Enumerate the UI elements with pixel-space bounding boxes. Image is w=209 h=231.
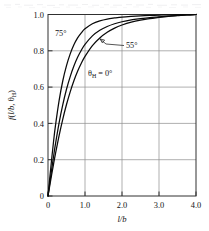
x-axis-title: l/b — [117, 214, 127, 224]
annotation-theta-0-deg: θH = 0° — [88, 69, 112, 79]
x-tick-label-3_0: 3.0 — [154, 201, 164, 210]
y-tick-label-0_8: 0.8 — [34, 47, 44, 56]
figure-container: 1.0 0.8 0.6 0.4 0.2 0 0 1.0 2.0 3.0 4.0 … — [0, 0, 209, 231]
annotation-55-deg: 55° — [126, 41, 137, 50]
svg-text:f(l/b, θH): f(l/b, θH) — [6, 90, 17, 120]
x-tick-label-0: 0 — [46, 201, 50, 210]
x-tick-label-1_0: 1.0 — [80, 201, 90, 210]
y-axis-title: f(l/b, θH) — [6, 90, 17, 120]
grid-group — [48, 15, 196, 197]
svg-text:θH = 0°: θH = 0° — [88, 69, 112, 79]
annotation-theta-deg: ° — [109, 69, 112, 78]
y-tick-label-0_2: 0.2 — [34, 156, 44, 165]
annotation-75-deg: 75° — [55, 29, 66, 38]
chart-svg: 1.0 0.8 0.6 0.4 0.2 0 0 1.0 2.0 3.0 4.0 … — [0, 0, 209, 231]
x-tick-labels: 0 1.0 2.0 3.0 4.0 — [46, 201, 201, 210]
x-tick-label-2_0: 2.0 — [117, 201, 127, 210]
leader-line-55 — [106, 44, 124, 46]
y-tick-label-1_0: 1.0 — [34, 11, 44, 20]
annotation-55-leader — [100, 39, 124, 46]
y-tick-label-0: 0 — [40, 192, 44, 201]
annotation-theta-eq: = 0 — [96, 69, 109, 78]
y-axis-title-close: ) — [6, 90, 16, 93]
y-tick-label-0_4: 0.4 — [34, 120, 45, 129]
y-tick-labels: 1.0 0.8 0.6 0.4 0.2 0 — [34, 11, 45, 202]
tick-marks-x — [48, 192, 196, 197]
y-tick-label-0_6: 0.6 — [34, 83, 44, 92]
x-tick-label-4_0: 4.0 — [191, 201, 201, 210]
